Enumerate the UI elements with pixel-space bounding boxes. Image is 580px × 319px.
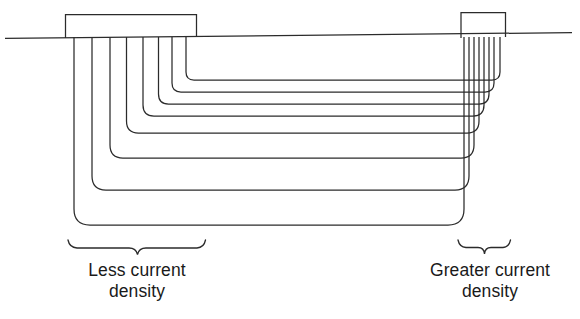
right-brace xyxy=(458,240,511,254)
flux-line-2 xyxy=(172,37,494,92)
left-electrode xyxy=(66,15,197,39)
less-current-density-label: Less current density xyxy=(44,260,230,302)
greater-current-density-label: Greater current density xyxy=(400,260,580,302)
flux-line-8 xyxy=(74,37,464,225)
flux-line-1 xyxy=(186,37,500,80)
left-brace xyxy=(68,240,206,255)
flux-lines-group xyxy=(74,37,500,225)
flux-line-7 xyxy=(92,37,469,190)
flux-line-3 xyxy=(159,37,490,104)
flux-line-6 xyxy=(110,37,474,158)
electrolyte-surface-line xyxy=(5,33,572,39)
flux-line-5 xyxy=(127,37,480,133)
